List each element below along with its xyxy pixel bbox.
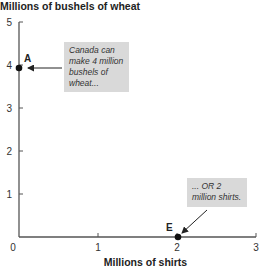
x-axis-title: Millions of shirts	[0, 256, 265, 268]
x-tick-2: 2	[174, 242, 180, 253]
y-tick-2: 2	[6, 146, 12, 157]
origin-label: 0	[10, 242, 16, 253]
chart-plot: 5 4 3 2 1 0 1 2 3 A E	[0, 0, 265, 272]
annotation-e: ... OR 2 million shirts.	[187, 178, 247, 207]
y-tick-5: 5	[6, 17, 12, 28]
point-a	[16, 65, 23, 72]
y-tick-3: 3	[6, 103, 12, 114]
y-tick-1: 1	[6, 189, 12, 200]
y-tick-4: 4	[6, 60, 12, 71]
point-e-label: E	[166, 222, 173, 233]
point-a-label: A	[24, 53, 31, 64]
x-tick-3: 3	[253, 242, 259, 253]
x-tick-1: 1	[95, 242, 101, 253]
annotation-a: Canada can make 4 million bushels of whe…	[64, 42, 129, 92]
point-e	[175, 234, 182, 241]
arrow-e	[182, 210, 207, 233]
